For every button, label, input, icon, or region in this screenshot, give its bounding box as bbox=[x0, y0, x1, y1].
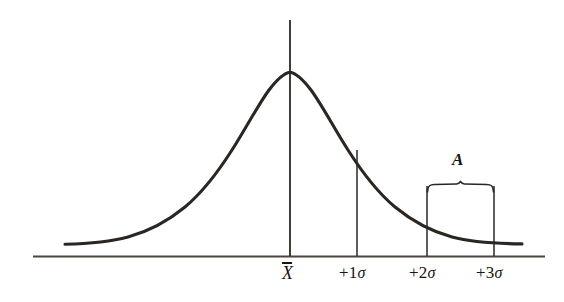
figure-canvas bbox=[0, 0, 564, 302]
sigma-symbol-2: σ bbox=[428, 264, 436, 281]
sigma-symbol-3: σ bbox=[495, 264, 503, 281]
axis-tick-label-mean: X bbox=[282, 262, 293, 284]
axis-tick-label-1-sigma: +1σ bbox=[339, 263, 366, 283]
axis-tick-label-3-sigma: +3σ bbox=[476, 263, 503, 283]
region-brace bbox=[428, 181, 494, 192]
x-bar-glyph: X bbox=[282, 262, 293, 284]
sigma-symbol-1: σ bbox=[358, 264, 366, 281]
normal-distribution-figure: X +1σ +2σ +3σ A bbox=[0, 0, 564, 302]
axis-tick-label-2-sigma: +2σ bbox=[409, 263, 436, 283]
sigma-sign-3: +3 bbox=[476, 263, 495, 282]
sigma-sign-2: +2 bbox=[409, 263, 428, 282]
sigma-sign-1: +1 bbox=[339, 263, 358, 282]
region-label-a: A bbox=[452, 150, 463, 170]
